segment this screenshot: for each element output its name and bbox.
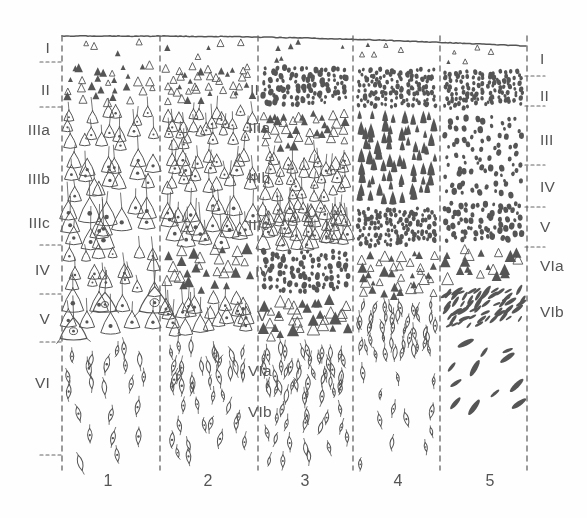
column-number-3: 3 <box>285 473 325 489</box>
right-lamina-label-vib: VIb <box>540 304 564 320</box>
left-lamina-label-ii: II <box>10 82 50 98</box>
right-lamina-label-ii: II <box>540 88 549 104</box>
right-lamina-label-iv: IV <box>540 179 555 195</box>
left-lamina-label-iiib: IIIb <box>10 171 50 187</box>
right-lamina-label-via: VIa <box>540 258 564 274</box>
inner-lamina-label-iiia: IIIa <box>248 120 270 136</box>
column-number-1: 1 <box>88 473 128 489</box>
column-number-4: 4 <box>378 473 418 489</box>
inner-lamina-label-iiic: IIIc <box>248 217 269 233</box>
left-lamina-label-v: V <box>10 311 50 327</box>
inner-lamina-label-via: VIa <box>248 363 272 379</box>
right-lamina-label-v: V <box>540 219 551 235</box>
column-number-5: 5 <box>470 473 510 489</box>
inner-lamina-label-iv: IV <box>255 264 270 280</box>
right-lamina-label-iii: III <box>540 132 554 148</box>
left-lamina-label-iiia: IIIa <box>10 122 50 138</box>
right-lamina-label-i: I <box>540 51 545 67</box>
inner-lamina-label-iiib: IIIb <box>248 170 270 186</box>
left-lamina-label-i: I <box>10 40 50 56</box>
left-lamina-label-iiic: IIIc <box>10 215 50 231</box>
inner-lamina-label-vib: VIb <box>248 404 272 420</box>
column-number-2: 2 <box>188 473 228 489</box>
cytoarchitecture-figure: IIIIIIaIIIbIIIcIVVVI IIIIIaIIIbIIIcIVVVI… <box>0 0 587 518</box>
cortical-lamination-canvas <box>0 0 587 518</box>
inner-lamina-label-v: V <box>257 308 268 324</box>
left-lamina-label-vi: VI <box>10 375 50 391</box>
left-lamina-label-iv: IV <box>10 262 50 278</box>
inner-lamina-label-ii: II <box>250 82 259 98</box>
